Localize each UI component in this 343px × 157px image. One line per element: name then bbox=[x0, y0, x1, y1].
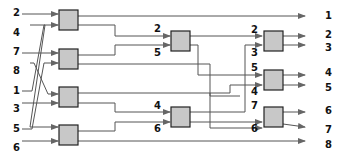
stage2-label: 6 bbox=[154, 124, 161, 134]
comparator-3-3 bbox=[264, 107, 283, 127]
stage3-label: 3 bbox=[251, 48, 258, 58]
input-label: 1 bbox=[13, 86, 20, 96]
output-label: 1 bbox=[325, 11, 332, 21]
comparator-3-2 bbox=[264, 70, 283, 90]
input-label: 6 bbox=[13, 143, 20, 153]
input-label: 8 bbox=[13, 66, 20, 76]
input-label: 7 bbox=[13, 47, 20, 57]
output-label: 6 bbox=[325, 106, 332, 116]
wire-in-5 bbox=[22, 63, 58, 129]
comparator-1-1 bbox=[59, 10, 78, 30]
wire-in-4 bbox=[30, 25, 58, 127]
output-label: 7 bbox=[325, 125, 332, 135]
sorting-network-diagram bbox=[0, 0, 343, 157]
comparator-1-2 bbox=[59, 49, 78, 69]
output-label: 8 bbox=[325, 140, 332, 150]
comparator-2-2 bbox=[171, 107, 190, 127]
stage2-label: 2 bbox=[154, 24, 161, 34]
stage2-label: 4 bbox=[154, 101, 161, 111]
stage3-label: 7 bbox=[251, 101, 258, 111]
stage3-label: 2 bbox=[251, 25, 258, 35]
input-label: 3 bbox=[13, 104, 20, 114]
comparator-1-3 bbox=[59, 87, 78, 107]
output-label: 5 bbox=[325, 83, 332, 93]
output-label: 4 bbox=[325, 68, 332, 78]
comparator-2-1 bbox=[171, 31, 190, 51]
stage3-label: 5 bbox=[251, 63, 258, 73]
comparator-1-4 bbox=[59, 125, 78, 145]
stage3-label: 4 bbox=[251, 87, 258, 97]
stage3-label: 6 bbox=[251, 124, 258, 134]
input-label: 5 bbox=[13, 124, 20, 134]
comparator-3-1 bbox=[264, 31, 283, 51]
output-label: 3 bbox=[325, 43, 332, 53]
stage2-label: 5 bbox=[154, 48, 161, 58]
input-label: 4 bbox=[13, 28, 20, 38]
output-label: 2 bbox=[325, 30, 332, 40]
input-label: 2 bbox=[13, 8, 20, 18]
